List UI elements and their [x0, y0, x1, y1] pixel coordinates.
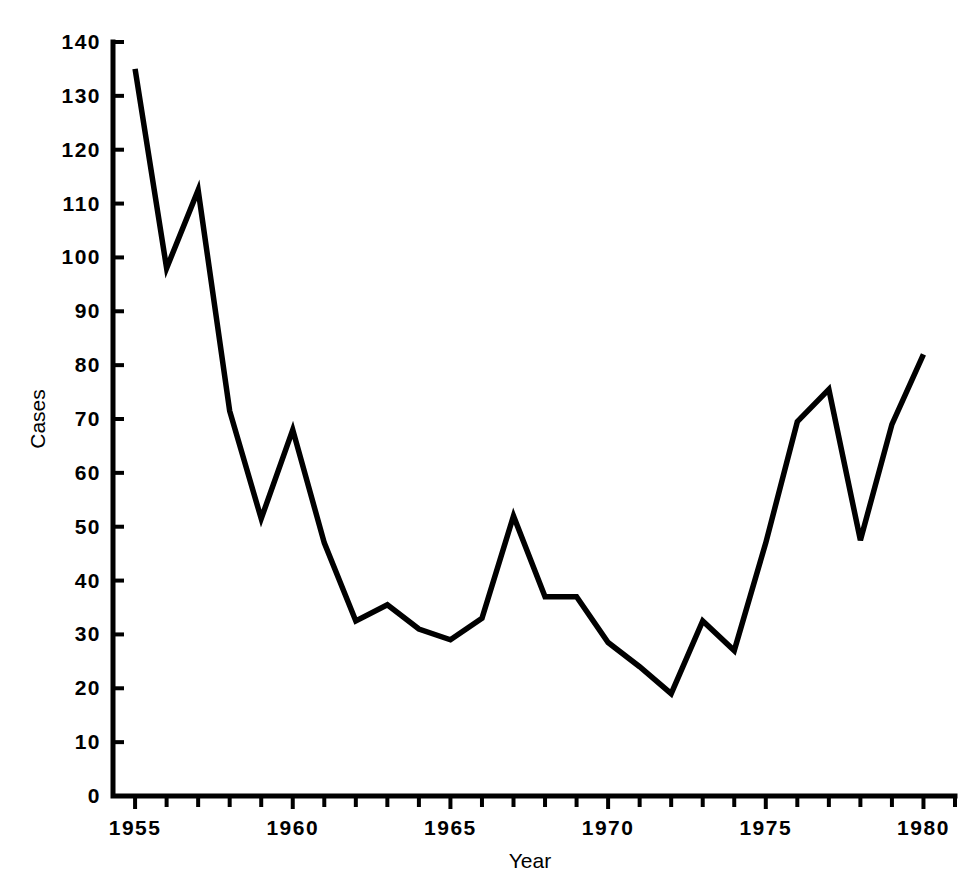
- axis-lines: [113, 42, 955, 796]
- y-axis-tick-label: 50: [25, 515, 101, 539]
- y-axis-tick-label: 30: [25, 622, 101, 646]
- y-axis-tick-label: 60: [25, 461, 101, 485]
- y-axis-tick-label: 100: [25, 245, 101, 269]
- caption-clipped-strip: [0, 881, 977, 889]
- y-axis-title: Cases: [26, 389, 50, 449]
- y-axis-tick-label: 120: [25, 138, 101, 162]
- x-axis-tick-label: 1975: [739, 816, 792, 840]
- x-axis-title: Year: [509, 849, 551, 873]
- y-axis-tick-label: 130: [25, 84, 101, 108]
- x-axis-tick-label: 1970: [582, 816, 635, 840]
- y-axis-tick-label: 80: [25, 353, 101, 377]
- data-series-lines: [135, 69, 923, 694]
- x-axis-tick-label: 1980: [897, 816, 950, 840]
- y-axis-tick-label: 90: [25, 299, 101, 323]
- x-axis-tick-label: 1965: [424, 816, 477, 840]
- y-axis-tick-label: 20: [25, 676, 101, 700]
- y-axis-tick-label: 40: [25, 569, 101, 593]
- chart-plot-area: [0, 0, 977, 889]
- x-axis-tick-label: 1960: [266, 816, 319, 840]
- x-axis-tick-label: 1955: [109, 816, 162, 840]
- y-axis-tick-label: 110: [25, 192, 101, 216]
- chart-figure: 0102030405060708090100110120130140 19551…: [0, 0, 977, 889]
- y-axis-tick-label: 10: [25, 730, 101, 754]
- y-axis-tick-label: 0: [25, 784, 101, 808]
- y-axis-tick-label: 140: [25, 30, 101, 54]
